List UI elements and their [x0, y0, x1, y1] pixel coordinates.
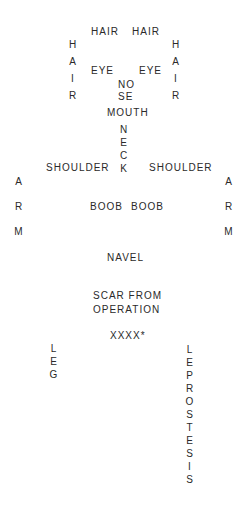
scar-label-line1: SCAR FROM [93, 291, 162, 301]
arm-right-label: ARM [224, 177, 233, 237]
arm-left-label: ARM [14, 177, 23, 237]
nose-top-label: NO [118, 80, 135, 90]
navel-label: NAVEL [107, 253, 144, 263]
hair-side-right: HAIR [172, 40, 180, 101]
hair-left-label: HAIR [91, 27, 119, 37]
xxxx-label: XXXX* [110, 331, 146, 341]
leg-label: LEG [50, 344, 59, 380]
scar-label-line2: OPERATION [93, 305, 160, 315]
nose-bottom-label: SE [118, 92, 133, 102]
hair-right-label: HAIR [132, 27, 160, 37]
mouth-label: MOUTH [107, 108, 149, 118]
hair-side-left: HAIR [69, 40, 77, 101]
boob-left-label: BOOB [90, 202, 123, 212]
boob-right-label: BOOB [131, 202, 164, 212]
leprostesis-label: LEPROSTESIS [186, 345, 195, 485]
eye-left-label: EYE [91, 66, 114, 76]
neck-label: NECK [120, 125, 128, 174]
shoulder-right-label: SHOULDER [149, 163, 213, 173]
eye-right-label: EYE [139, 66, 162, 76]
shoulder-left-label: SHOULDER [46, 163, 110, 173]
